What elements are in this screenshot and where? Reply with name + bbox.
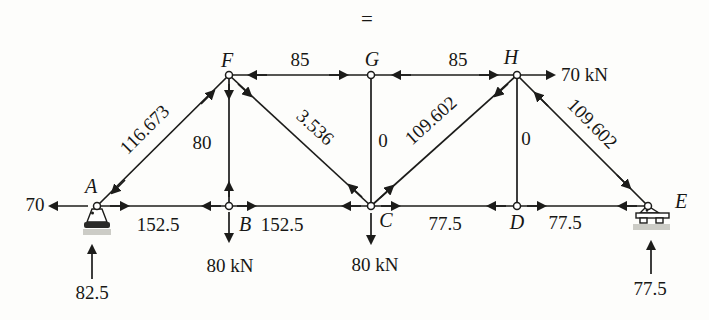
pin-support-A-pedestal [87,209,107,222]
joint-B [226,203,233,210]
joint-D [514,203,521,210]
joint-H [514,72,521,79]
applied-load-C-label: 80 kN [352,254,399,275]
joint-A [94,203,101,210]
roller-support-E-wheel-right [656,218,663,223]
joint-G [368,72,375,79]
member-CD-force-label: 77.5 [428,213,461,234]
pin-support-A [83,209,111,235]
joint-C [368,203,375,210]
applied-load-A-label: 70 [26,194,45,215]
joint-H-label: H [503,46,520,68]
joint-C-label: C [379,209,393,231]
joint-A-label: A [83,175,98,197]
member-GH-force-label: 85 [449,49,468,70]
truss-free-body-diagram: = A B C D E F G H 152.5 152.5 77.5 77.5 … [0,0,709,320]
joint-E-label: E [674,190,687,212]
arrow-CH-at-H [495,84,508,96]
roller-support-E-ground-shadow [633,224,670,230]
member-HD-force-label: 0 [521,128,531,149]
arrow-FC-at-C [349,185,362,197]
arrow-HE-at-E [617,175,630,188]
arrow-FC-at-F [238,84,251,96]
pin-support-A-ground-shadow [83,229,111,235]
joint-D-label: D [509,211,525,233]
labels: = A B C D E F G H 152.5 152.5 77.5 77.5 … [26,7,688,303]
member-GC-force-label: 0 [378,130,388,151]
joint-G-label: G [365,48,380,70]
member-force-arrows [110,75,637,206]
roller-support-E-wheel-left [640,218,647,223]
roller-support-E-base-bar [636,213,669,218]
reaction-E-label: 77.5 [633,278,666,299]
applied-load-B-label: 80 kN [207,255,254,276]
member-DE-force-label: 77.5 [548,212,581,233]
pin-support-A-base-plate [84,222,110,228]
member-AB-force-label: 152.5 [137,214,180,235]
member-CH-force-label: 109.602 [401,92,461,149]
joint-F-label: F [220,49,234,71]
arrow-CH-at-C [380,186,393,198]
external-force-arrows [50,75,651,279]
roller-support-E [633,208,670,230]
arrow-AF-at-A [112,180,125,193]
truss-figure: = A B C D E F G H 152.5 152.5 77.5 77.5 … [0,0,709,320]
member-BC-force-label: 152.5 [261,214,304,235]
member-FG-force-label: 85 [291,49,310,70]
equals-sign: = [361,7,373,31]
joint-B-label: B [239,213,251,235]
joint-F [226,72,233,79]
joints [94,72,652,210]
member-HE-force-label: 109.602 [564,94,622,153]
member-FC-force-label: 3.536 [293,105,339,149]
joint-E [645,203,652,210]
member-AF-force-label: 116.673 [115,100,173,158]
applied-load-H-label: 70 kN [561,64,608,85]
reaction-A-label: 82.5 [75,282,108,303]
pin-support-A-pin [91,212,94,215]
arrow-HE-at-H [535,93,548,106]
member-FB-force-label: 80 [193,132,212,153]
members [97,75,648,206]
arrow-AF-at-F [201,91,214,104]
